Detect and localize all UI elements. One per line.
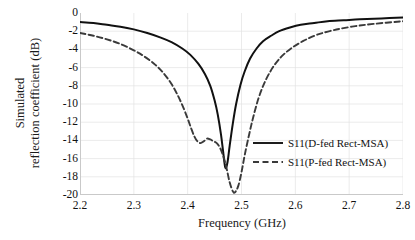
y-axis-tick-label: -2 xyxy=(44,25,78,37)
x-axis-tick-label: 2.2 xyxy=(60,199,100,211)
x-axis-tick-label: 2.3 xyxy=(114,199,154,211)
x-axis-tick-label: 2.5 xyxy=(222,199,262,211)
y-axis-tick-label: -12 xyxy=(44,116,78,128)
legend-item-solid: S11(D-fed Rect-MSA) xyxy=(252,133,402,152)
x-axis-title: Frequency (GHz) xyxy=(80,216,404,230)
x-axis-tick-label: 2.4 xyxy=(168,199,208,211)
y-axis-tick-label: -4 xyxy=(44,44,78,56)
chart-figure: Simulated reflection coefficient (dB) 0-… xyxy=(0,0,415,240)
chart-legend: S11(D-fed Rect-MSA) S11(P-fed Rect-MSA) xyxy=(252,133,402,171)
legend-swatch-dashed-line xyxy=(252,157,284,167)
legend-label-solid: S11(D-fed Rect-MSA) xyxy=(288,137,388,149)
x-axis-tick-label: 2.7 xyxy=(329,199,369,211)
y-axis-tick-label: -10 xyxy=(44,98,78,110)
legend-item-dashed: S11(P-fed Rect-MSA) xyxy=(252,152,402,171)
y-axis-tick-label: -18 xyxy=(44,171,78,183)
y-axis-tick-label: -6 xyxy=(44,62,78,74)
y-axis-tick-label: -16 xyxy=(44,153,78,165)
y-axis-tick-label: -14 xyxy=(44,135,78,147)
y-axis-title-line1: Simulated xyxy=(13,37,28,167)
x-axis-tick-label: 2.8 xyxy=(383,199,415,211)
legend-swatch-solid-line xyxy=(252,138,284,148)
legend-label-dashed: S11(P-fed Rect-MSA) xyxy=(288,156,386,168)
y-axis-tick-label: 0 xyxy=(44,7,78,19)
y-axis-tick-label: -8 xyxy=(44,80,78,92)
x-axis-tick-label: 2.6 xyxy=(275,199,315,211)
